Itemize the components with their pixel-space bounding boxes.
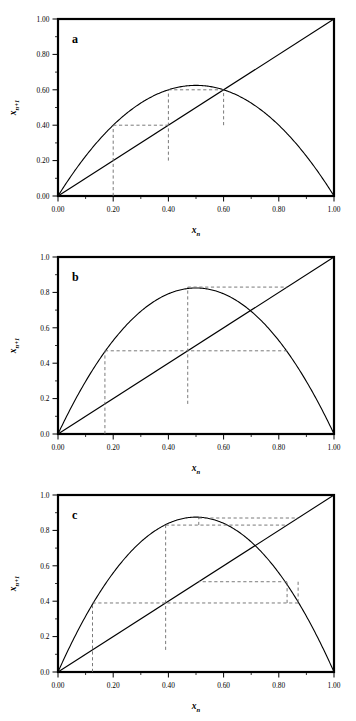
cobweb-path xyxy=(113,90,223,196)
panel-letter: b xyxy=(72,270,79,284)
plot-b: 0.000.200.400.600.801.000.00.20.40.60.81… xyxy=(0,238,356,483)
x-axis-subscript: n xyxy=(197,230,201,237)
panel-c: 0.000.200.400.600.801.000.00.20.40.60.81… xyxy=(0,476,356,721)
y-tick-label: 0.4 xyxy=(40,597,50,606)
svg-text:xn+1: xn+1 xyxy=(8,338,20,354)
y-tick-label: 0.0 xyxy=(40,430,50,439)
axis-ticks: 0.000.200.400.600.801.000.00.20.40.60.81… xyxy=(40,491,341,690)
panel-a: 0.000.200.400.600.801.000.000.200.400.60… xyxy=(0,0,356,245)
axis-ticks: 0.000.200.400.600.801.000.00.20.40.60.81… xyxy=(40,253,341,452)
plot-a: 0.000.200.400.600.801.000.000.200.400.60… xyxy=(0,0,356,245)
x-tick-label: 1.00 xyxy=(328,443,341,452)
y-tick-label: 0.2 xyxy=(40,394,50,403)
logistic-curve xyxy=(58,85,334,196)
panel-letter: a xyxy=(72,32,78,46)
x-tick-label: 0.20 xyxy=(107,443,120,452)
y-axis-subscript: n+1 xyxy=(13,338,20,349)
y-tick-label: 0.0 xyxy=(40,668,50,677)
figure-page: 0.000.200.400.600.801.000.000.200.400.60… xyxy=(0,0,356,721)
x-tick-label: 0.00 xyxy=(52,681,65,690)
identity-line xyxy=(58,257,334,434)
y-tick-label: 0.20 xyxy=(37,156,50,165)
y-axis-title: xn+1 xyxy=(8,338,20,354)
y-tick-label: 0.60 xyxy=(37,86,50,95)
y-axis-subscript: n+1 xyxy=(13,100,20,111)
x-tick-label: 0.80 xyxy=(272,681,285,690)
y-tick-label: 0.2 xyxy=(40,632,50,641)
y-axis-title: xn+1 xyxy=(8,576,20,592)
x-tick-label: 0.40 xyxy=(162,443,175,452)
y-tick-label: 0.8 xyxy=(40,526,50,535)
x-tick-label: 0.40 xyxy=(162,681,175,690)
y-axis-title: xn+1 xyxy=(8,100,20,116)
panel-b: 0.000.200.400.600.801.000.00.20.40.60.81… xyxy=(0,238,356,483)
x-tick-label: 1.00 xyxy=(328,681,341,690)
svg-text:xn+1: xn+1 xyxy=(8,100,20,116)
panel-letter: c xyxy=(72,508,78,522)
y-tick-label: 0.4 xyxy=(40,359,50,368)
y-tick-label: 1.00 xyxy=(37,15,50,24)
identity-line xyxy=(58,19,334,196)
logistic-curve xyxy=(58,517,334,672)
x-axis-title: xn xyxy=(191,701,201,713)
x-tick-label: 0.80 xyxy=(272,443,285,452)
y-tick-label: 0.40 xyxy=(37,121,50,130)
x-axis-subscript: n xyxy=(197,468,201,475)
y-tick-label: 0.8 xyxy=(40,288,50,297)
x-tick-label: 0.20 xyxy=(107,205,120,214)
x-tick-label: 0.00 xyxy=(52,205,65,214)
x-tick-label: 0.80 xyxy=(272,205,285,214)
x-tick-label: 0.20 xyxy=(107,681,120,690)
x-tick-label: 1.00 xyxy=(328,205,341,214)
x-tick-label: 0.60 xyxy=(217,205,230,214)
x-tick-label: 0.60 xyxy=(217,681,230,690)
y-tick-label: 0.00 xyxy=(37,192,50,201)
plot-c: 0.000.200.400.600.801.000.00.20.40.60.81… xyxy=(0,476,356,721)
x-axis-title: xn xyxy=(191,225,201,237)
identity-line xyxy=(58,495,334,672)
x-tick-label: 0.00 xyxy=(52,443,65,452)
cobweb-path xyxy=(105,287,287,434)
y-tick-label: 1.0 xyxy=(40,491,50,500)
x-axis-subscript: n xyxy=(197,706,201,713)
svg-text:xn+1: xn+1 xyxy=(8,576,20,592)
y-axis-subscript: n+1 xyxy=(13,576,20,587)
y-tick-label: 0.80 xyxy=(37,50,50,59)
x-tick-label: 0.60 xyxy=(217,443,230,452)
y-tick-label: 0.6 xyxy=(40,562,50,571)
cobweb-path xyxy=(93,518,299,672)
x-tick-label: 0.40 xyxy=(162,205,175,214)
x-axis-title: xn xyxy=(191,463,201,475)
y-tick-label: 0.6 xyxy=(40,324,50,333)
y-tick-label: 1.0 xyxy=(40,253,50,262)
logistic-curve xyxy=(58,288,334,434)
